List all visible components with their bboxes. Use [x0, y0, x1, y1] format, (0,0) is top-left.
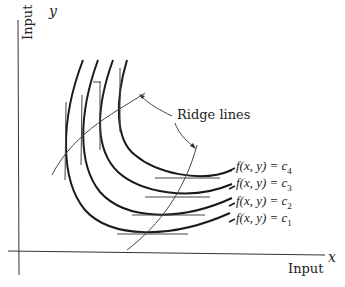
x-axis: [8, 251, 325, 255]
production-isoquant-diagram: y Input x Input Ridge lines f(x, y) = c4…: [0, 0, 345, 287]
isoquant-label-c1: f(x, y) = c1: [236, 210, 292, 228]
isoquant-label-c2: f(x, y) = c2: [236, 193, 292, 211]
y-axis-symbol: y: [49, 3, 57, 19]
y-axis-label: Input: [20, 5, 35, 40]
tangent-vertical-c2: [81, 95, 82, 165]
isoquant-label-c4: f(x, y) = c4: [236, 158, 292, 176]
equation-text: f(x, y) = c: [236, 175, 287, 190]
x-axis-label: Input: [288, 261, 323, 276]
ridge-lines-label: Ridge lines: [177, 107, 250, 122]
equation-text: f(x, y) = c: [236, 193, 287, 208]
isoquant-label-c3: f(x, y) = c3: [236, 175, 292, 193]
label-leader-c1: [229, 219, 235, 222]
label-leader-c3: [229, 186, 235, 189]
subscript: 3: [287, 183, 292, 193]
tangent-vertical-c1: [65, 102, 66, 180]
y-axis: [18, 20, 19, 275]
subscript: 1: [287, 218, 292, 228]
equation-text: f(x, y) = c: [236, 158, 287, 173]
equation-text: f(x, y) = c: [236, 210, 287, 225]
x-axis-symbol: x: [328, 249, 336, 265]
diagram-canvas: [0, 0, 345, 287]
arrow-to-upper-ridge: [141, 96, 172, 116]
arrow-to-lower-ridge: [175, 123, 194, 147]
label-leader-c2: [229, 203, 235, 206]
